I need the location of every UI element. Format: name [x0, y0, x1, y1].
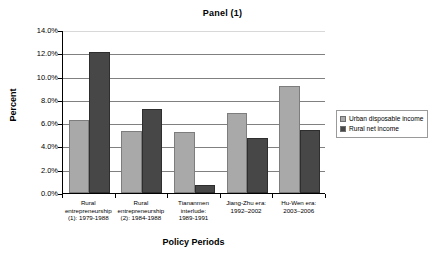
x-axis-tick-mark — [62, 194, 63, 198]
x-axis-tick-label-line: (2): 1984-1988 — [115, 214, 168, 222]
x-axis-tick-label-line: 2003–2006 — [272, 207, 325, 215]
y-axis-tick-label: 6.0% — [12, 120, 58, 128]
x-axis-tick-label-line: entrepreneurship — [62, 207, 115, 215]
x-axis-tick-label-line: interlude: — [167, 207, 220, 215]
x-axis-tick-mark — [167, 194, 168, 198]
y-axis-tick-label: 2.0% — [12, 167, 58, 175]
y-axis-tick-label: 4.0% — [12, 143, 58, 151]
x-axis-tick-mark — [272, 194, 273, 198]
y-axis-title: Percent — [8, 75, 18, 135]
bar — [300, 130, 321, 193]
bar — [69, 120, 90, 193]
bar — [121, 131, 142, 193]
x-axis-tick-label-line: Hu-Wen era: — [272, 199, 325, 207]
x-axis-tick-label-line: 1992–2002 — [220, 207, 273, 215]
x-axis-tick-label: Tiananmeninterlude:1989-1991 — [167, 199, 220, 222]
y-axis-tick-label: 12.0% — [12, 50, 58, 58]
x-axis-title: Policy Periods — [62, 237, 325, 247]
bar — [89, 52, 110, 193]
legend-swatch-icon — [340, 126, 346, 132]
bar — [142, 109, 163, 193]
chart-title: Panel (1) — [0, 8, 445, 18]
x-axis-tick-label: Jiang-Zhu era:1992–2002 — [220, 199, 273, 214]
legend-item: Urban disposable income — [340, 114, 423, 124]
y-axis-tick-label: 8.0% — [12, 97, 58, 105]
plot-area — [62, 31, 325, 194]
x-axis-tick-mark — [220, 194, 221, 198]
legend-label: Rural net income — [349, 125, 399, 133]
bar — [279, 86, 300, 193]
x-axis-tick-label-line: Rural — [115, 199, 168, 207]
legend-label: Urban disposable income — [349, 115, 423, 123]
x-axis-tick-label-line: Tiananmen — [167, 199, 220, 207]
y-axis-tick-label: 0.0% — [12, 190, 58, 198]
legend-item: Rural net income — [340, 124, 423, 134]
x-axis-tick-label-line: 1989-1991 — [167, 214, 220, 222]
gridline — [63, 31, 325, 32]
y-axis-tick-label: 10.0% — [12, 74, 58, 82]
x-axis-tick-label: Hu-Wen era:2003–2006 — [272, 199, 325, 214]
x-axis-tick-mark — [115, 194, 116, 198]
x-axis-tick-label-line: entrepreneurship — [115, 207, 168, 215]
x-axis-tick-label-line: Rural — [62, 199, 115, 207]
x-axis-tick-label: Ruralentrepreneurship(2): 1984-1988 — [115, 199, 168, 222]
bar — [195, 185, 216, 193]
chart-legend: Urban disposable incomeRural net income — [336, 110, 428, 138]
legend-swatch-icon — [340, 116, 346, 122]
bar-chart: Panel (1) 0.0%2.0%4.0%6.0%8.0%10.0%12.0%… — [0, 0, 445, 263]
bar — [227, 113, 248, 193]
x-axis-tick-label-line: Jiang-Zhu era: — [220, 199, 273, 207]
y-axis-tick-label: 14.0% — [12, 27, 58, 35]
bar — [174, 132, 195, 193]
bar — [247, 138, 268, 193]
x-axis-tick-label-line: (1): 1979-1988 — [62, 214, 115, 222]
x-axis-tick-mark — [325, 194, 326, 198]
x-axis-tick-label: Ruralentrepreneurship(1): 1979-1988 — [62, 199, 115, 222]
